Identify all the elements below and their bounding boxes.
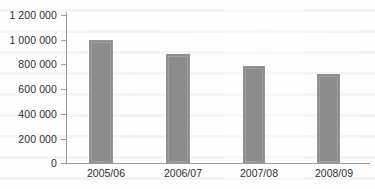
bar-2006-07[interactable]: [166, 54, 190, 164]
plot-area: [66, 12, 370, 163]
y-axis-label-600000: 600 000: [0, 84, 57, 94]
x-axis-label-2005-06: 2005/06: [66, 167, 146, 179]
bar-2005-06[interactable]: [89, 40, 113, 163]
bar-chart-figure: 1 200 000 1 000 000 800 000 600 000 400 …: [0, 0, 375, 189]
x-axis-label-2008-09: 2008/09: [294, 167, 374, 179]
x-axis-label-2007-08: 2007/08: [219, 167, 299, 179]
y-axis-label-1000000: 1 000 000: [0, 35, 57, 45]
bar-2008-09[interactable]: [317, 74, 340, 163]
y-axis-label-0: 0: [0, 158, 57, 168]
bar-2007-08[interactable]: [243, 66, 265, 163]
bar-highlight-edge: [91, 42, 111, 162]
x-axis-label-2006-07: 2006/07: [143, 167, 223, 179]
y-axis-label-800000: 800 000: [0, 59, 57, 69]
y-axis-label-200000: 200 000: [0, 134, 57, 144]
bar-highlight-edge: [319, 76, 338, 162]
y-axis-label-400000: 400 000: [0, 109, 57, 119]
y-axis-label-1200000: 1 200 000: [0, 10, 57, 20]
x-axis-line: [66, 163, 370, 164]
bar-highlight-edge: [245, 68, 263, 162]
bar-highlight-edge: [168, 56, 188, 163]
y-axis-tick-0: [61, 163, 66, 164]
